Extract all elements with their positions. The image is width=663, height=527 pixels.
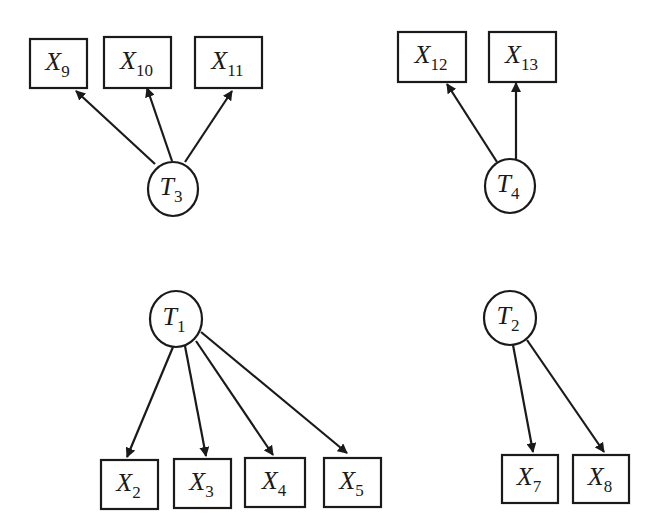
latent-node-t2: T2 <box>484 291 536 345</box>
edge-t2-to-x7 <box>513 345 533 452</box>
edge-t2-to-x8 <box>527 340 604 452</box>
observed-node-x7: X7 <box>502 455 558 503</box>
edge-t1-to-x5 <box>201 332 347 453</box>
edge-t1-to-x4 <box>196 341 273 455</box>
observed-node-x9: X9 <box>30 39 87 88</box>
observed-node-x8: X8 <box>573 455 629 503</box>
observed-node-x4: X4 <box>245 458 305 507</box>
observed-node-x5: X5 <box>324 458 381 507</box>
observed-node-x2: X2 <box>101 460 158 509</box>
edge-t1-to-x2 <box>127 347 173 457</box>
diagram-canvas: T3T4T1T2 X9X10X11X12X13X2X3X4X5X7X8 <box>0 0 663 527</box>
observed-node-x10: X10 <box>104 37 171 88</box>
edge-t4-to-x12 <box>447 84 497 162</box>
diagram-svg: T3T4T1T2 X9X10X11X12X13X2X3X4X5X7X8 <box>0 0 663 527</box>
edges-layer <box>76 83 604 457</box>
latent-node-t1: T1 <box>150 291 202 347</box>
observed-node-x13: X13 <box>489 32 556 82</box>
edge-t3-to-x9 <box>76 91 155 164</box>
latent-node-t3: T3 <box>148 162 198 216</box>
edge-t3-to-x11 <box>185 91 232 162</box>
edge-t1-to-x3 <box>185 346 206 456</box>
latent-node-t4: T4 <box>485 159 535 213</box>
observed-node-x11: X11 <box>195 37 262 88</box>
latent-nodes-layer: T3T4T1T2 <box>148 159 536 347</box>
edge-t3-to-x10 <box>147 88 172 161</box>
observed-node-x12: X12 <box>398 32 466 82</box>
observed-node-x3: X3 <box>174 459 231 508</box>
